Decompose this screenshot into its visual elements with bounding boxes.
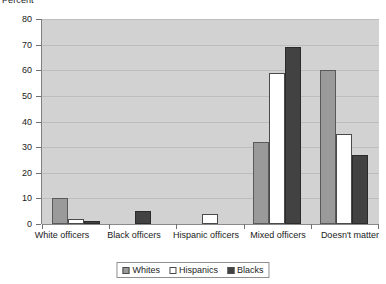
y-tick-label: 60 bbox=[22, 66, 32, 75]
x-axis-label: Mixed officers bbox=[242, 230, 314, 256]
y-axis-title: Percent bbox=[2, 0, 34, 5]
x-axis-label: Hispanic officers bbox=[170, 230, 242, 256]
legend-item: Blacks bbox=[227, 265, 264, 275]
y-tick-label: 10 bbox=[22, 194, 32, 203]
legend-label: Hispanics bbox=[179, 265, 218, 275]
y-tick-label: 80 bbox=[22, 15, 32, 24]
y-tick-label: 40 bbox=[22, 118, 32, 127]
x-tick-mark bbox=[311, 224, 312, 229]
y-tick-label: 70 bbox=[22, 41, 32, 50]
x-tick-mark bbox=[109, 224, 110, 229]
x-axis-label: Black officers bbox=[98, 230, 170, 256]
chart-legend: WhitesHispanicsBlacks bbox=[116, 262, 269, 278]
bar bbox=[202, 214, 218, 224]
bar-group bbox=[244, 19, 311, 224]
bar-chart: Percent 01020304050607080 White officers… bbox=[0, 0, 386, 284]
bar bbox=[336, 134, 352, 224]
bar-group bbox=[176, 19, 243, 224]
y-tick-mark bbox=[36, 173, 41, 174]
x-tick-mark bbox=[176, 224, 177, 229]
x-tick-mark bbox=[42, 224, 43, 229]
y-tick-mark bbox=[36, 70, 41, 71]
y-tick-label: 20 bbox=[22, 169, 32, 178]
y-tick-mark bbox=[36, 45, 41, 46]
bar bbox=[320, 70, 336, 224]
legend-swatch-icon bbox=[227, 267, 234, 274]
y-tick-mark bbox=[36, 96, 41, 97]
y-tick-mark bbox=[36, 224, 41, 225]
y-tick-mark bbox=[36, 198, 41, 199]
bar-groups bbox=[42, 19, 378, 224]
y-tick-mark bbox=[36, 122, 41, 123]
legend-label: Whites bbox=[132, 265, 160, 275]
bar bbox=[285, 47, 301, 224]
x-axis bbox=[42, 224, 378, 229]
y-tick-mark bbox=[36, 147, 41, 148]
y-tick-label: 30 bbox=[22, 143, 32, 152]
legend-swatch-icon bbox=[122, 267, 129, 274]
legend-item: Whites bbox=[122, 265, 160, 275]
bar-group bbox=[109, 19, 176, 224]
bar-group bbox=[311, 19, 378, 224]
x-axis-labels: White officersBlack officersHispanic off… bbox=[26, 230, 386, 256]
bar bbox=[52, 198, 68, 224]
bar bbox=[352, 155, 368, 224]
y-tick-mark bbox=[36, 19, 41, 20]
x-tick-mark bbox=[378, 224, 379, 229]
y-tick-label: 0 bbox=[27, 220, 32, 229]
y-tick-label: 50 bbox=[22, 92, 32, 101]
x-tick-mark bbox=[244, 224, 245, 229]
x-axis-label: Doesn't matter bbox=[314, 230, 386, 256]
bar bbox=[253, 142, 269, 224]
bar-group bbox=[42, 19, 109, 224]
legend-item: Hispanics bbox=[169, 265, 218, 275]
bar bbox=[135, 211, 151, 224]
bar bbox=[269, 73, 285, 224]
y-axis: 01020304050607080 bbox=[0, 19, 41, 225]
x-axis-label: White officers bbox=[26, 230, 98, 256]
legend-swatch-icon bbox=[169, 267, 176, 274]
legend-label: Blacks bbox=[237, 265, 264, 275]
